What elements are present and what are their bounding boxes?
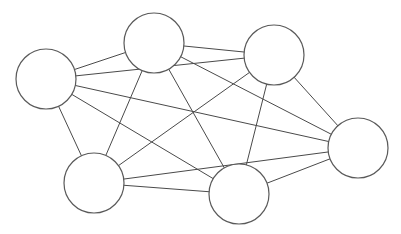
- node-E: [209, 164, 269, 224]
- node-F: [328, 118, 388, 178]
- edge-A-F: [46, 79, 358, 148]
- node-D: [64, 153, 124, 213]
- network-graph: [0, 0, 401, 234]
- node-A: [16, 49, 76, 109]
- node-B: [124, 13, 184, 73]
- node-layer: [16, 13, 388, 224]
- node-C: [244, 25, 304, 85]
